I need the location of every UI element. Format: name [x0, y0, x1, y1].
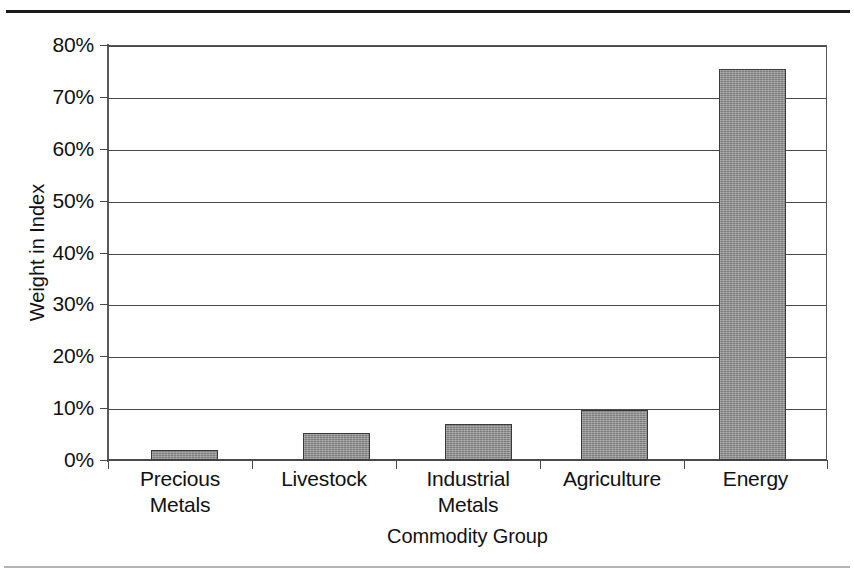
y-tick-label-80: 80%	[53, 34, 94, 55]
gridline-80	[109, 46, 826, 47]
x-category-line1: Precious	[140, 467, 220, 490]
bar-livestock	[303, 433, 370, 460]
y-tick-mark-80	[100, 45, 109, 46]
y-tick-mark-70	[100, 97, 109, 98]
y-tick-label-20: 20%	[53, 345, 94, 366]
y-tick-label-40: 40%	[53, 242, 94, 263]
x-category-line1: Industrial	[426, 467, 509, 490]
y-tick-mark-50	[100, 201, 109, 202]
y-tick-mark-20	[100, 356, 109, 357]
y-tick-mark-60	[100, 149, 109, 150]
bottom-horizontal-rule	[4, 566, 850, 568]
y-tick-label-60: 60%	[53, 138, 94, 159]
x-category-line2: Metals	[396, 492, 540, 518]
x-tick-mark-5	[827, 460, 828, 469]
y-tick-mark-10	[100, 408, 109, 409]
y-tick-label-70: 70%	[53, 86, 94, 107]
y-axis-title: Weight in Index	[22, 45, 52, 460]
bar-precious-metals	[151, 450, 218, 460]
y-tick-mark-30	[100, 304, 109, 305]
x-category-label-industrial-metals: Industrial Metals	[396, 466, 540, 518]
top-horizontal-rule	[6, 10, 850, 13]
x-category-line1: Energy	[723, 467, 788, 490]
y-tick-mark-40	[100, 253, 109, 254]
x-category-label-agriculture: Agriculture	[540, 466, 684, 492]
x-category-label-precious-metals: Precious Metals	[108, 466, 252, 518]
x-category-label-energy: Energy	[684, 466, 827, 492]
bar-industrial-metals	[445, 424, 512, 460]
x-axis-title: Commodity Group	[108, 524, 827, 548]
x-category-line1: Agriculture	[563, 467, 661, 490]
x-category-line1: Livestock	[281, 467, 367, 490]
y-tick-label-0: 0%	[64, 449, 94, 470]
bar-agriculture	[581, 410, 648, 460]
bar-energy	[719, 69, 786, 460]
y-tick-label-30: 30%	[53, 293, 94, 314]
x-category-line2: Metals	[108, 492, 252, 518]
y-tick-label-10: 10%	[53, 397, 94, 418]
x-category-label-livestock: Livestock	[252, 466, 396, 492]
y-tick-label-50: 50%	[53, 190, 94, 211]
chart-figure: 80% 70% 60% 50% 40% 30% 20% 10% 0% Weigh…	[0, 0, 854, 573]
